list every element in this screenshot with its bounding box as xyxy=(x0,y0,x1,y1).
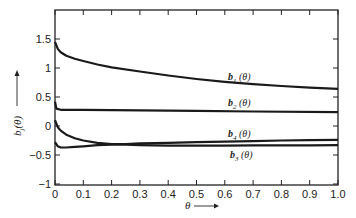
x-axis-ticks: 00.10.20.30.40.50.60.70.80.91.0 xyxy=(52,10,346,200)
x-arrowhead-icon xyxy=(214,204,219,209)
x-tick-label: 1.0 xyxy=(330,188,345,200)
series-line xyxy=(55,42,338,89)
line-chart: 00.10.20.30.40.50.60.70.80.91.0 −1−0.500… xyxy=(0,0,356,218)
x-tick-label: 0.2 xyxy=(104,188,119,200)
y-tick-label: 0 xyxy=(45,120,51,132)
x-tick-label: 0.4 xyxy=(161,188,176,200)
x-tick-label: 0.9 xyxy=(302,188,317,200)
series-label: b3 (θ) xyxy=(230,149,253,163)
y-arrowhead-icon xyxy=(15,70,20,76)
x-tick-label: 0.5 xyxy=(189,188,204,200)
series-lines xyxy=(55,42,338,148)
x-axis-label-text: θ xyxy=(185,199,191,211)
y-tick-label: 1.5 xyxy=(36,33,51,45)
plot-frame xyxy=(55,10,338,185)
series-line xyxy=(55,102,338,113)
x-tick-label: 0.7 xyxy=(245,188,260,200)
x-tick-label: 0.3 xyxy=(132,188,147,200)
y-axis-label: bj(θ) xyxy=(11,70,26,136)
y-axis-label-text: bj(θ) xyxy=(11,115,26,136)
y-tick-label: 0.5 xyxy=(36,91,51,103)
y-tick-label: 1 xyxy=(45,62,51,74)
series-label: b2 (θ) xyxy=(228,97,251,111)
x-tick-label: 0.8 xyxy=(274,188,289,200)
x-axis-label: θ xyxy=(185,199,219,211)
series-line xyxy=(55,120,338,144)
x-tick-label: 0.1 xyxy=(76,188,91,200)
y-tick-label: −0.5 xyxy=(29,149,51,161)
y-tick-label: −1 xyxy=(38,178,51,190)
series-label: b4 (θ) xyxy=(228,128,251,142)
x-tick-label: 0 xyxy=(52,188,58,200)
x-tick-label: 0.6 xyxy=(217,188,232,200)
